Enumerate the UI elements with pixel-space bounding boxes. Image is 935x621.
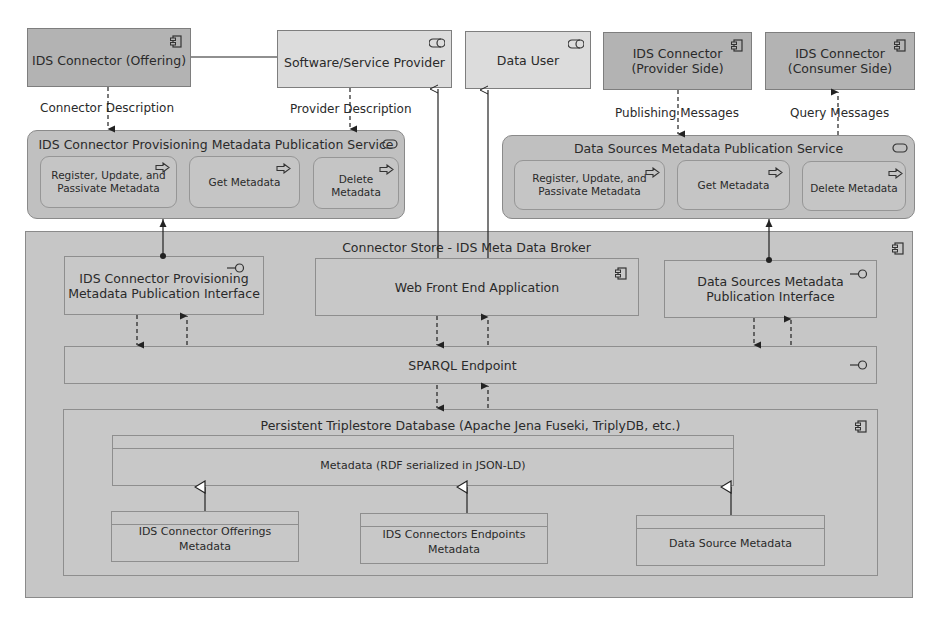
component-icon xyxy=(892,242,904,255)
ids-connector-offerings-metadata: IDS Connector Offerings Metadata xyxy=(111,511,299,562)
function-label: Register, Update, and xyxy=(532,172,646,185)
datasources-get-function: Get Metadata xyxy=(677,160,790,210)
web-front-end-application: Web Front End Application xyxy=(315,258,639,316)
data-user: Data User xyxy=(465,31,591,89)
service-icon xyxy=(382,139,398,149)
class-header xyxy=(112,512,298,525)
connector-description-label: Connector Description xyxy=(40,101,174,115)
software-service-provider: Software/Service Provider xyxy=(277,30,452,88)
query-messages-label: Query Messages xyxy=(790,106,889,120)
provider-side-line2: (Provider Side) xyxy=(631,61,723,76)
function-label: Passivate Metadata xyxy=(57,182,159,195)
component-icon xyxy=(170,35,182,48)
subclass-label: IDS Connectors Endpoints Metadata xyxy=(361,527,547,557)
class-body: IDS Connector Offerings Metadata xyxy=(139,524,272,554)
data-user-label: Data User xyxy=(497,53,559,68)
datasources-register-function: Register, Update, and Passivate Metadata xyxy=(514,160,665,210)
function-label: Get Metadata xyxy=(698,179,770,192)
broker-title: Connector Store - IDS Meta Data Broker xyxy=(21,240,912,255)
function-arrow-icon xyxy=(379,164,394,175)
ids-connector-offering: IDS Connector (Offering) xyxy=(27,28,191,87)
interface-icon xyxy=(850,269,868,279)
component-icon xyxy=(894,39,906,52)
class-header xyxy=(637,516,824,529)
interface-label: Data Sources Metadata xyxy=(697,274,843,289)
ids-connector-provider-side: IDS Connector (Provider Side) xyxy=(603,32,752,90)
class-header xyxy=(113,436,733,449)
provisioning-get-function: Get Metadata xyxy=(189,156,300,208)
triplestore-title: Persistent Triplestore Database (Apache … xyxy=(64,418,877,433)
provider-side-line1: IDS Connector xyxy=(633,46,723,61)
interface-icon xyxy=(850,360,868,370)
provisioning-register-function: Register, Update, and Passivate Metadata xyxy=(40,156,177,208)
metadata-rdf-class: Metadata (RDF serialized in JSON-LD) xyxy=(112,435,734,486)
component-icon xyxy=(855,420,867,433)
consumer-side-line1: IDS Connector xyxy=(795,46,885,61)
role-icon xyxy=(568,39,584,49)
ids-connector-consumer-side: IDS Connector (Consumer Side) xyxy=(765,32,915,90)
ids-connector-offering-label: IDS Connector (Offering) xyxy=(32,53,186,68)
metadata-label: Metadata (RDF serialized in JSON-LD) xyxy=(320,458,525,473)
interface-label: Metadata Publication Interface xyxy=(68,286,260,301)
subclass-label: Metadata xyxy=(139,539,272,554)
software-service-provider-label: Software/Service Provider xyxy=(284,55,445,70)
consumer-side-line2: (Consumer Side) xyxy=(788,61,893,76)
role-icon xyxy=(429,38,445,48)
function-label: Passivate Metadata xyxy=(538,185,640,198)
class-header xyxy=(361,514,547,527)
provisioning-service-title: IDS Connector Provisioning Metadata Publ… xyxy=(28,137,404,152)
interface-label: IDS Connector Provisioning xyxy=(79,271,248,286)
provisioning-metadata-publication-interface: IDS Connector Provisioning Metadata Publ… xyxy=(64,256,264,315)
function-label: Get Metadata xyxy=(209,176,281,189)
subclass-label: IDS Connector Offerings xyxy=(139,524,272,539)
function-arrow-icon xyxy=(888,168,903,179)
publishing-messages-label: Publishing Messages xyxy=(615,106,739,120)
data-source-metadata: Data Source Metadata xyxy=(636,515,825,566)
web-front-end-label: Web Front End Application xyxy=(395,280,559,295)
datasources-metadata-publication-interface: Data Sources Metadata Publication Interf… xyxy=(664,260,877,318)
ids-connectors-endpoints-metadata: IDS Connectors Endpoints Metadata xyxy=(360,513,548,564)
function-label: Delete Metadata xyxy=(314,173,398,199)
component-icon xyxy=(615,267,627,280)
function-arrow-icon xyxy=(768,167,783,178)
interface-label: Publication Interface xyxy=(706,289,835,304)
interface-icon xyxy=(227,263,245,273)
subclass-label: Data Source Metadata xyxy=(669,536,792,551)
sparql-endpoint: SPARQL Endpoint xyxy=(64,346,877,384)
datasources-delete-function: Delete Metadata xyxy=(802,161,906,211)
function-arrow-icon xyxy=(155,162,170,173)
provider-description-label: Provider Description xyxy=(290,102,412,116)
component-icon xyxy=(731,39,743,52)
function-label: Register, Update, and xyxy=(51,169,165,182)
service-icon xyxy=(892,143,908,153)
function-label: Delete Metadata xyxy=(810,182,898,195)
sparql-endpoint-label: SPARQL Endpoint xyxy=(408,358,516,373)
function-arrow-icon xyxy=(276,163,291,174)
function-arrow-icon xyxy=(645,167,660,178)
provisioning-delete-function: Delete Metadata xyxy=(313,157,399,209)
datasources-service-title: Data Sources Metadata Publication Servic… xyxy=(503,141,914,156)
